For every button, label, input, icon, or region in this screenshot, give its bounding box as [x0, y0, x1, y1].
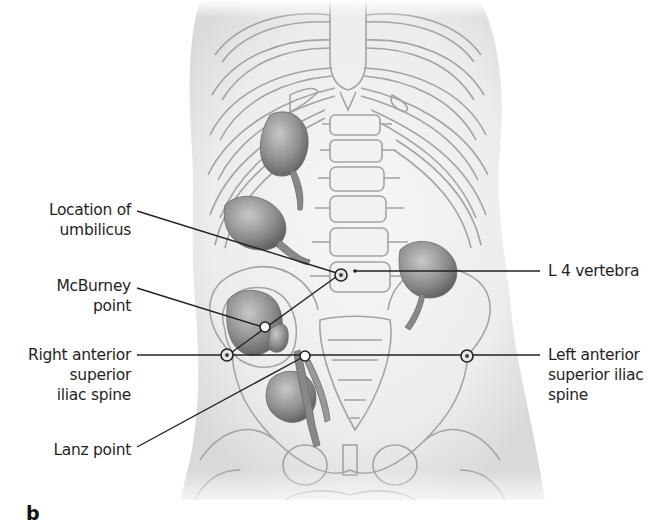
label-umbilicus: Location of umbilicus	[49, 200, 131, 240]
lanz-marker	[300, 351, 310, 361]
label-line: point	[56, 296, 131, 316]
mcburney-marker	[260, 322, 270, 332]
label-line: Right anterior	[28, 345, 131, 365]
label-line: McBurney	[56, 276, 131, 296]
label-right-asis: Right anterior superior iliac spine	[28, 345, 131, 405]
label-line: iliac spine	[28, 385, 131, 405]
label-line: superior	[28, 365, 131, 385]
label-line: Lanz point	[53, 440, 131, 460]
label-line: umbilicus	[49, 220, 131, 240]
label-line: superior iliac	[548, 365, 643, 385]
panel-letter: b	[26, 502, 40, 524]
label-line: Location of	[49, 200, 131, 220]
label-l4-vertebra: L 4 vertebra	[548, 261, 639, 281]
label-line: spine	[548, 385, 643, 405]
label-lanz-point: Lanz point	[53, 440, 131, 460]
l4-dot	[353, 269, 357, 273]
label-line: Left anterior	[548, 345, 643, 365]
anatomy-figure: Location of umbilicus McBurney point Rig…	[0, 0, 657, 528]
label-left-asis: Left anterior superior iliac spine	[548, 345, 643, 405]
label-line: L 4 vertebra	[548, 261, 639, 281]
label-mcburney-point: McBurney point	[56, 276, 131, 316]
